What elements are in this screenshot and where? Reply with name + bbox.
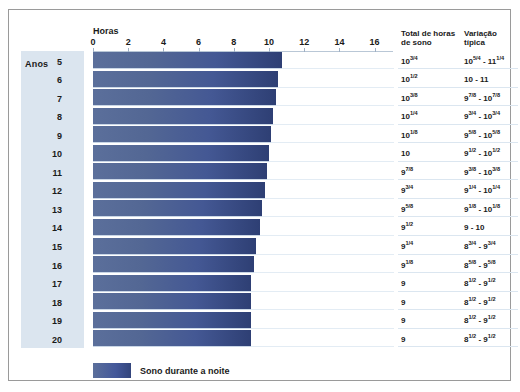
cell-typical-variation: 81/2 - 91/2: [464, 335, 496, 344]
bar-separator: [93, 198, 265, 199]
column-header-typical-variation: Variação típica: [464, 29, 520, 47]
column-header-total-hours-line2: de sono: [401, 38, 459, 47]
cell-total-hours: 9: [401, 316, 405, 325]
cell-total-hours: 9: [401, 279, 405, 288]
value-row-divider: [398, 142, 518, 143]
bar: [93, 312, 251, 328]
value-row-divider: [398, 309, 518, 310]
cell-total-hours: 103/8: [401, 94, 418, 103]
bar-separator: [93, 272, 254, 273]
year-label: 6: [32, 75, 62, 85]
x-axis-tick-mark: [339, 48, 340, 52]
cell-total-hours: 97/8: [401, 168, 413, 177]
value-row-divider: [398, 198, 518, 199]
x-axis-tick-mark: [199, 48, 200, 52]
x-axis-tick-label: 14: [334, 37, 344, 47]
bar-separator: [93, 328, 251, 329]
bar: [93, 163, 267, 179]
x-axis-tick-label: 6: [196, 37, 201, 47]
plot-area: [93, 52, 394, 348]
x-axis-tick-mark: [234, 48, 235, 52]
bar-separator: [93, 87, 278, 88]
cell-typical-variation: 91/8 - 101/8: [464, 205, 500, 214]
year-label: 9: [32, 131, 62, 141]
year-label: 5: [32, 57, 62, 67]
bar-separator: [93, 346, 251, 347]
bar-separator: [93, 142, 271, 143]
bar: [93, 71, 278, 87]
x-axis-tick-label: 2: [126, 37, 131, 47]
year-label: 8: [32, 112, 62, 122]
bar-separator: [93, 309, 251, 310]
cell-typical-variation: 95/8 - 105/8: [464, 131, 500, 140]
bar-separator: [93, 105, 276, 106]
x-axis-tick-label: 8: [231, 37, 236, 47]
bar: [93, 330, 251, 346]
cell-typical-variation: 97/8 - 107/8: [464, 94, 500, 103]
legend-color-swatch: [93, 363, 131, 378]
value-row-divider: [398, 68, 518, 69]
value-row-divider: [398, 328, 518, 329]
x-axis-tick-mark: [93, 48, 94, 52]
cell-total-hours: 103/4: [401, 57, 418, 66]
value-row-divider: [398, 161, 518, 162]
year-label: 18: [32, 298, 62, 308]
x-axis-tick-label: 10: [264, 37, 274, 47]
bar: [93, 275, 251, 291]
year-label: 10: [32, 149, 62, 159]
x-axis-tick-label: 0: [90, 37, 95, 47]
cell-typical-variation: 91/2 - 101/2: [464, 149, 500, 158]
x-axis-tick-label: 16: [370, 37, 380, 47]
column-header-typical-variation-line1: Variação: [464, 29, 520, 38]
x-axis-tick-mark: [269, 48, 270, 52]
bar: [93, 219, 260, 235]
bar: [93, 145, 269, 161]
cell-typical-variation: 105/4 - 111/4: [464, 57, 504, 66]
cell-total-hours: 93/4: [401, 186, 413, 195]
cell-total-hours: 91/8: [401, 261, 413, 270]
value-row-divider: [398, 346, 518, 347]
cell-total-hours: 101/2: [401, 75, 418, 84]
value-row-divider: [398, 87, 518, 88]
cell-typical-variation: 10 - 11: [464, 75, 488, 84]
column-header-total-hours: Total de horas de sono: [401, 29, 459, 47]
cell-typical-variation: 85/8 - 95/8: [464, 261, 496, 270]
bar-separator: [93, 124, 273, 125]
bar-separator: [93, 68, 282, 69]
cell-typical-variation: 93/4 - 103/4: [464, 112, 500, 121]
legend-label: Sono durante a noite: [140, 366, 230, 376]
cell-typical-variation: 81/2 - 91/2: [464, 279, 496, 288]
value-row-divider: [398, 179, 518, 180]
value-row-divider: [398, 105, 518, 106]
bar-separator: [93, 179, 267, 180]
bar-separator: [93, 291, 251, 292]
bar: [93, 108, 273, 124]
cell-total-hours: 95/8: [401, 205, 413, 214]
x-axis-tick-label: 12: [299, 37, 309, 47]
year-label: 20: [32, 335, 62, 345]
bar: [93, 89, 276, 105]
cell-total-hours: 9: [401, 298, 405, 307]
bar: [93, 238, 256, 254]
year-label: 11: [32, 168, 62, 178]
cell-typical-variation: 81/2 - 91/2: [464, 298, 496, 307]
cell-typical-variation: 93/8 - 103/8: [464, 168, 500, 177]
bar: [93, 182, 265, 198]
year-label: 13: [32, 205, 62, 215]
x-axis-tick-mark: [375, 48, 376, 52]
bar: [93, 256, 254, 272]
year-label: 19: [32, 316, 62, 326]
year-label: 12: [32, 186, 62, 196]
cell-typical-variation: 9 - 10: [464, 223, 484, 232]
cell-typical-variation: 91/4 - 101/4: [464, 186, 500, 195]
x-axis-tick-mark: [128, 48, 129, 52]
year-label: 17: [32, 279, 62, 289]
x-axis-title: Horas: [93, 26, 119, 36]
column-header-total-hours-line1: Total de horas: [401, 29, 459, 38]
value-row-divider: [398, 254, 518, 255]
year-label: 7: [32, 94, 62, 104]
value-row-divider: [398, 235, 518, 236]
value-row-divider: [398, 216, 518, 217]
bar: [93, 293, 251, 309]
bar-separator: [93, 235, 260, 236]
